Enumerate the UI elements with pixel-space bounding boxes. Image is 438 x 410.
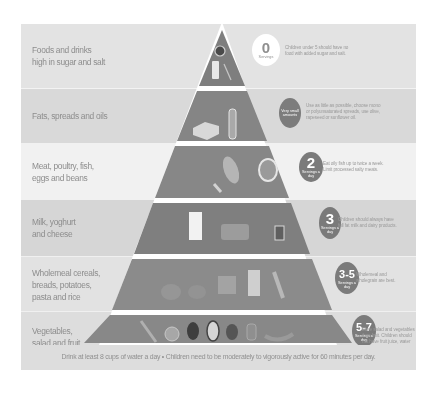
lettuce-icon — [207, 321, 219, 341]
steak-icon — [259, 159, 277, 181]
servings-badge-fats: Very small amounts — [279, 98, 301, 128]
tier-description-dairy: Children should always have full fat mil… — [338, 217, 397, 229]
pyramid-tier-fats — [177, 91, 267, 141]
tier-description-meat: Eat oily fish up to twice a week. Limit … — [323, 161, 384, 173]
pepper-icon — [247, 324, 256, 340]
tier-description-sugar-salt: Children under 5 should have no food wit… — [285, 45, 348, 57]
cereal-icon — [218, 276, 236, 294]
servings-badge-sugar-salt: 0 Servings — [252, 34, 280, 66]
soft-drink-can-icon — [212, 61, 219, 79]
orange-icon — [165, 327, 179, 341]
yoghurt-icon — [275, 226, 284, 240]
apple-icon — [226, 324, 238, 340]
tier-description-cereals: Wholemeal and wholegrain are best. — [356, 272, 395, 284]
chocolate-bar-icon — [215, 46, 225, 56]
footer-band: Drink at least 8 cups of water a day • C… — [21, 345, 416, 369]
footer-text: Drink at least 8 cups of water a day • C… — [21, 353, 416, 360]
servings-badge-meat: 2 Servings a day — [299, 152, 323, 182]
pyramid-tier-sugar-salt — [199, 30, 245, 86]
milk-carton-icon — [189, 212, 202, 240]
broccoli-icon — [187, 322, 199, 340]
food-pyramid-poster: Foods and drinks high in sugar and salt … — [21, 24, 416, 369]
cheese-icon — [221, 224, 249, 240]
tier-description-fats: Use as little as possible, choose mono o… — [306, 103, 380, 121]
potato-icon — [188, 285, 206, 299]
pasta-icon — [248, 270, 260, 296]
oil-bottle-icon — [229, 109, 236, 139]
bread-icon — [161, 284, 181, 300]
